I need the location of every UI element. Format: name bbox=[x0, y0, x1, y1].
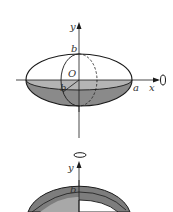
label-y-axis: y bbox=[69, 21, 76, 32]
top-figure: y b O b a x bbox=[16, 21, 166, 112]
y-rotation-loop-icon bbox=[74, 153, 86, 158]
label-x-axis: x bbox=[149, 82, 155, 93]
label-b-bottom: b bbox=[70, 184, 76, 195]
ellipsoid-diagram: y b O b a x y b bbox=[0, 0, 173, 212]
label-b-radius: b bbox=[60, 82, 66, 93]
y-axis-arrow-icon bbox=[77, 22, 82, 29]
label-origin: O bbox=[68, 68, 76, 79]
label-b-top: b bbox=[71, 43, 77, 54]
label-y-axis-bottom: y bbox=[67, 162, 74, 173]
bottom-figure: y b bbox=[28, 106, 130, 212]
x-rotation-loop-icon bbox=[161, 75, 166, 85]
label-a: a bbox=[133, 82, 139, 93]
y-axis-bottom-arrow-icon bbox=[77, 161, 82, 168]
